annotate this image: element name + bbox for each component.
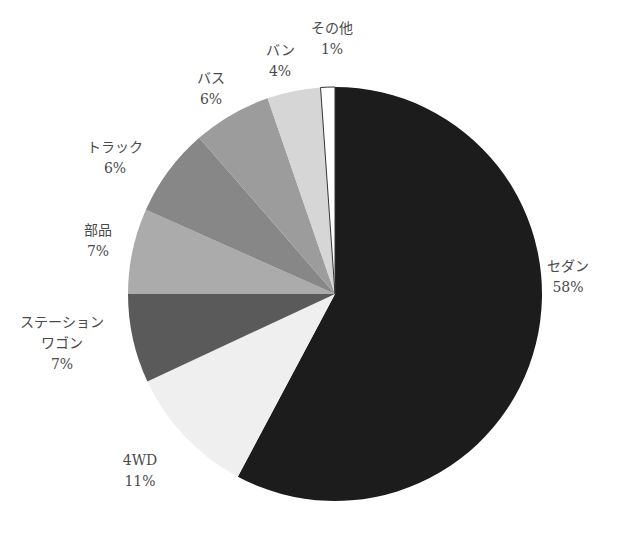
slice-name: バン <box>266 40 295 61</box>
slice-name: ステーション <box>20 312 104 333</box>
slice-label: トラック6% <box>87 137 143 179</box>
slice-percent: 7% <box>20 354 104 375</box>
slice-name: 部品 <box>84 220 112 241</box>
slice-label: その他1% <box>311 18 353 60</box>
slice-name: セダン <box>547 256 589 277</box>
slice-percent: 7% <box>84 241 112 262</box>
slice-percent: 6% <box>87 158 143 179</box>
slice-label: 部品7% <box>84 220 112 262</box>
slice-percent: 4% <box>266 61 295 82</box>
slice-name: トラック <box>87 137 143 158</box>
slice-percent: 6% <box>197 89 225 110</box>
slice-name: ワゴン <box>20 333 104 354</box>
slice-name: バス <box>197 68 225 89</box>
slice-percent: 58% <box>547 277 589 298</box>
slice-name: 4WD <box>123 450 158 471</box>
pie-slices <box>128 87 542 501</box>
slice-label: 4WD11% <box>123 450 158 492</box>
slice-percent: 1% <box>311 39 353 60</box>
pie-chart <box>0 0 628 537</box>
slice-percent: 11% <box>123 471 158 492</box>
slice-name: その他 <box>311 18 353 39</box>
slice-label: ステーションワゴン7% <box>20 312 104 375</box>
slice-label: バス6% <box>197 68 225 110</box>
slice-label: セダン58% <box>547 256 589 298</box>
slice-label: バン4% <box>266 40 295 82</box>
